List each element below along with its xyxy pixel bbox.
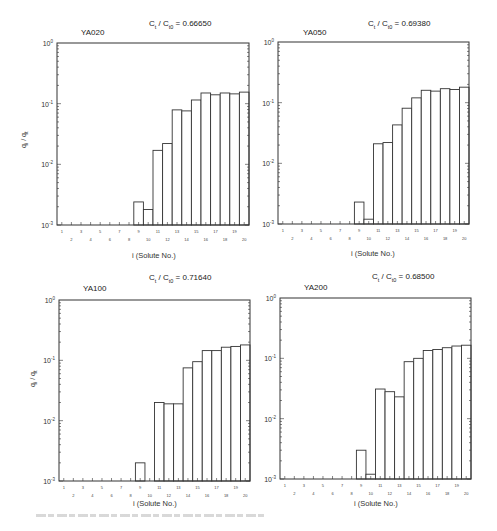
bar-solute-18 [440, 89, 450, 224]
x-tick-label: 18 [445, 491, 450, 496]
bar-solute-12 [383, 143, 393, 224]
x-tick-label: 6 [109, 237, 112, 242]
x-tick-label: 8 [128, 237, 131, 242]
x-tick-label: 11 [157, 485, 162, 490]
x-tick-label: 3 [301, 228, 304, 233]
bar-solute-17 [211, 95, 221, 225]
bar-solute-16 [421, 90, 431, 224]
y-tick-label: 100 [43, 39, 54, 47]
y-tick-label: 10-3 [264, 475, 276, 483]
x-tick-label: 6 [331, 491, 334, 496]
y-tick-label: 100 [45, 296, 56, 304]
x-tick-label: 10 [147, 493, 152, 498]
x-tick-label: 17 [435, 483, 440, 488]
x-tick-label: 6 [329, 236, 332, 241]
bar-solute-13 [393, 125, 403, 224]
x-tick-label: 2 [293, 491, 296, 496]
x-tick-label: 6 [110, 493, 113, 498]
x-tick-label: 14 [184, 237, 189, 242]
bar-solute-12 [163, 144, 173, 225]
y-tick-label: 10-3 [41, 221, 53, 229]
x-tick-label: 7 [120, 485, 123, 490]
x-tick-label: 8 [130, 493, 133, 498]
bar-solute-11 [155, 403, 165, 481]
y-tick-label: 10-1 [41, 100, 53, 108]
x-tick-label: 12 [167, 493, 172, 498]
bar-solute-12 [385, 392, 395, 479]
x-tick-label: 1 [284, 483, 287, 488]
x-tick-label: 19 [452, 228, 457, 233]
x-tick-label: 14 [407, 491, 412, 496]
bar-solute-18 [442, 348, 452, 479]
x-tick-label: 13 [395, 228, 400, 233]
y-tick-label: 10-2 [264, 415, 276, 423]
x-tick-label: 5 [101, 485, 104, 490]
x-tick-label: 1 [63, 485, 66, 490]
bar-solute-20 [461, 345, 471, 479]
x-tick-label: 15 [414, 228, 419, 233]
y-tick-label: 10-1 [43, 356, 55, 364]
bar-chart: 10-310-210-11001234567891011121314151617… [221, 256, 497, 512]
x-tick-label: 12 [165, 237, 170, 242]
bar-chart: 10-310-210-11001234567891011121314151617… [0, 0, 248, 256]
x-tick-label: 9 [360, 483, 363, 488]
bar-solute-15 [414, 358, 424, 479]
x-tick-label: 3 [80, 229, 83, 234]
bar-solute-14 [183, 368, 193, 481]
x-tick-label: 8 [351, 491, 354, 496]
x-tick-label: 3 [82, 485, 85, 490]
x-tick-label: 12 [388, 491, 393, 496]
bar-solute-12 [164, 404, 174, 481]
bar-solute-15 [193, 362, 203, 481]
x-tick-label: 14 [405, 236, 410, 241]
x-tick-label: 15 [195, 485, 200, 490]
x-tick-label: 17 [213, 229, 218, 234]
x-tick-label: 19 [454, 483, 459, 488]
x-tick-label: 13 [175, 229, 180, 234]
x-tick-label: 13 [397, 483, 402, 488]
y-tick-label: 10-2 [41, 160, 53, 168]
x-tick-label: 7 [339, 228, 342, 233]
figure-caption [36, 514, 266, 517]
y-tick-label: 10-3 [262, 220, 274, 228]
bar-solute-20 [459, 87, 469, 224]
x-tick-label: 4 [310, 236, 313, 241]
x-tick-label: 20 [464, 491, 469, 496]
x-tick-label: 15 [416, 483, 421, 488]
bar-solute-11 [376, 389, 386, 479]
x-tick-label: 10 [366, 236, 371, 241]
bar-solute-19 [450, 89, 460, 224]
x-tick-label: 13 [176, 485, 181, 490]
x-tick-label: 7 [341, 483, 344, 488]
x-tick-label: 4 [89, 237, 92, 242]
bar-solute-9 [134, 202, 144, 225]
bar-solute-16 [202, 351, 212, 481]
x-tick-label: 5 [99, 229, 102, 234]
bar-solute-11 [153, 150, 163, 225]
y-tick-label: 100 [264, 38, 275, 46]
bar-solute-14 [182, 111, 192, 225]
x-tick-label: 14 [186, 493, 191, 498]
x-tick-label: 2 [72, 493, 75, 498]
x-tick-label: 1 [61, 229, 64, 234]
bar-solute-9 [356, 450, 366, 479]
bar-solute-11 [374, 144, 384, 224]
x-tick-label: 3 [303, 483, 306, 488]
bar-solute-14 [402, 108, 412, 224]
x-tick-label: 12 [386, 236, 391, 241]
bar-solute-17 [433, 350, 443, 479]
bar-solute-14 [404, 362, 414, 479]
bar-solute-17 [431, 91, 441, 224]
x-tick-label: 8 [349, 236, 352, 241]
y-tick-label: 10-2 [43, 417, 55, 425]
x-tick-label: 16 [205, 493, 210, 498]
x-tick-label: 11 [376, 228, 381, 233]
x-tick-label: 4 [91, 493, 94, 498]
chart-panel-ya020: YA020 Ct / Ct0 = 0.66650 qi / qt i (Solu… [0, 0, 248, 256]
bar-solute-9 [354, 202, 364, 224]
bar-solute-13 [172, 110, 182, 225]
x-tick-label: 9 [139, 485, 142, 490]
bar-solute-16 [423, 350, 433, 479]
x-tick-label: 15 [194, 229, 199, 234]
bar-solute-19 [452, 346, 462, 479]
